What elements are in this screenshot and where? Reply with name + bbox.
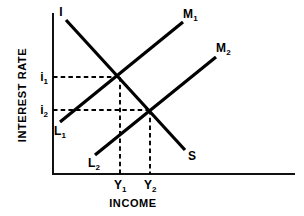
curve-label-I: I <box>59 5 63 19</box>
curve-label-S: S <box>188 149 196 163</box>
x-axis-title: INCOME <box>109 197 157 209</box>
x-tick-label-Y2: Y2 <box>144 178 157 194</box>
is-lm-chart-svg: I M1 M2 L1 L2 S i1 i2 Y1 Y2 <box>0 0 304 216</box>
curve-label-L2: L2 <box>88 156 101 172</box>
curve-label-L1: L1 <box>54 124 67 140</box>
curve-label-M2: M2 <box>216 41 231 57</box>
y-tick-label-i2: i2 <box>40 103 48 119</box>
x-tick-label-Y1: Y1 <box>114 178 127 194</box>
economics-diagram-figure: I M1 M2 L1 L2 S i1 i2 Y1 Y2 <box>0 0 304 216</box>
y-axis-title: INTEREST RATE <box>16 48 28 142</box>
y-tick-label-i1: i1 <box>40 70 48 86</box>
l1-m1-curve <box>60 22 183 122</box>
curve-label-M1: M1 <box>183 7 198 23</box>
